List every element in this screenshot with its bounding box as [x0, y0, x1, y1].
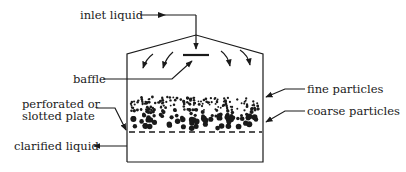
fine-particles-label: fine particles [307, 82, 383, 96]
inlet-pipe [140, 12, 196, 49]
flow-arrow-icon [143, 54, 153, 68]
flow-arrows [143, 50, 250, 68]
baffle-label: baffle [73, 72, 106, 86]
clarified-liquid-label: clarified liquid [14, 139, 99, 153]
flow-arrow-icon [221, 51, 230, 66]
coarse-particles-label: coarse particles [307, 104, 400, 118]
flow-arrow-icon [163, 52, 173, 68]
plate-label-line2: slotted plate [22, 109, 95, 123]
inlet-liquid-label: inlet liquid [80, 8, 144, 22]
upflow-clarifier-diagram: inlet liquid baffle perforated or slotte… [0, 0, 406, 172]
inlet-flow-arrow-icon [158, 12, 166, 18]
flow-arrow-icon [240, 50, 250, 65]
particle-bed [130, 96, 260, 131]
